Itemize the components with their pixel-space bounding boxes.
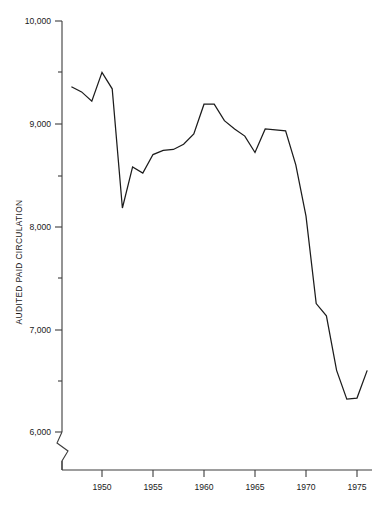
- x-axis-ticks: [102, 470, 357, 477]
- y-tick-label: 9,000: [29, 119, 51, 129]
- x-tick-label: 1955: [143, 482, 162, 492]
- x-tick-label: 1970: [296, 482, 315, 492]
- y-tick-label: 6,000: [29, 427, 51, 437]
- data-series-line: [71, 72, 367, 399]
- x-tick-label: 1965: [245, 482, 264, 492]
- line-chart: AUDITED PAID CIRCULATION 10,000 9,000: [0, 0, 380, 509]
- y-tick-label: 10,000: [25, 16, 52, 26]
- x-tick-label: 1975: [347, 482, 366, 492]
- y-tick-label: 7,000: [29, 325, 51, 335]
- y-axis-tick-labels: 10,000 9,000 8,000 7,000 6,000: [25, 16, 52, 437]
- x-axis-tick-labels: 1950 1955 1960 1965 1970 1975: [92, 482, 366, 492]
- y-tick-label: 8,000: [29, 222, 51, 232]
- y-axis-major-ticks: [55, 21, 62, 432]
- x-tick-label: 1950: [92, 482, 111, 492]
- y-axis-label: AUDITED PAID CIRCULATION: [14, 200, 24, 325]
- x-tick-label: 1960: [194, 482, 213, 492]
- chart-container: AUDITED PAID CIRCULATION 10,000 9,000: [0, 0, 380, 509]
